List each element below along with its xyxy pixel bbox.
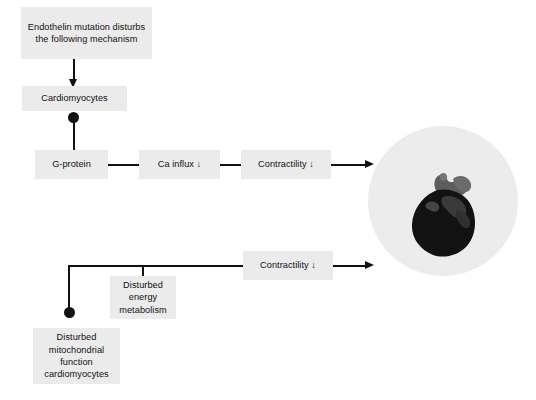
connector-trigger-to-cardiomyocytes	[73, 59, 75, 80]
connector-trunk-to-mitochondria	[68, 265, 70, 312]
connector-contractility-top-to-heart	[331, 164, 368, 166]
arrowhead-contractility-bottom-to-heart	[365, 261, 374, 269]
connector-gprotein-to-cainflux	[108, 164, 139, 166]
node-cardiomyocytes: Cardiomyocytes	[22, 86, 127, 111]
node-contractility-top: Contractility ↓	[241, 150, 331, 179]
node-ca-influx: Ca influx ↓	[139, 150, 220, 179]
node-disturbed-mitochondrial-function-label: Disturbed mitochondrial function cardiom…	[37, 331, 116, 381]
node-endothelin-mutation-label: Endothelin mutation disturbs the followi…	[25, 21, 148, 46]
node-disturbed-mitochondrial-function: Disturbed mitochondrial function cardiom…	[33, 328, 120, 384]
connector-cainflux-to-contractility-top	[220, 164, 241, 166]
node-endothelin-mutation: Endothelin mutation disturbs the followi…	[21, 7, 152, 59]
node-contractility-top-label: Contractility ↓	[245, 158, 327, 170]
arrowhead-contractility-top-to-heart	[365, 160, 374, 168]
connector-cardiomyocytes-to-gprotein	[73, 120, 75, 151]
connector-trunk-bottom	[68, 265, 243, 267]
connector-contractility-bottom-to-heart	[333, 265, 368, 267]
node-cardiomyocytes-label: Cardiomyocytes	[26, 92, 123, 104]
node-g-protein-label: G-protein	[39, 158, 104, 170]
connector-dot-mitochondria	[64, 307, 75, 318]
diagram-canvas: Endothelin mutation disturbs the followi…	[0, 0, 536, 400]
node-disturbed-energy-metabolism-label: Disturbed energy metabolism	[114, 279, 172, 316]
node-disturbed-energy-metabolism: Disturbed energy metabolism	[110, 276, 176, 319]
heart-illustration	[409, 170, 485, 258]
node-ca-influx-label: Ca influx ↓	[143, 158, 216, 170]
node-contractility-bottom: Contractility ↓	[243, 251, 333, 280]
node-contractility-bottom-label: Contractility ↓	[247, 259, 329, 271]
node-g-protein: G-protein	[35, 150, 108, 179]
